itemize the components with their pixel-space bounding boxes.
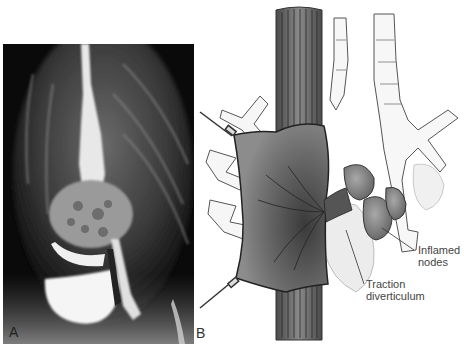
panel-label-b: B: [196, 325, 205, 341]
retracted-pouch: [234, 124, 329, 292]
barium-xray-image: [3, 44, 194, 344]
traction-diverticulum-label: Traction diverticulum: [366, 278, 425, 302]
inflamed-nodes-label: Inflamed nodes: [418, 244, 460, 268]
panel-label-a: A: [9, 324, 18, 340]
radiograph-panel: A: [3, 44, 194, 344]
illustration-panel: B Inflamed nodes Traction diverticulum: [196, 0, 464, 347]
